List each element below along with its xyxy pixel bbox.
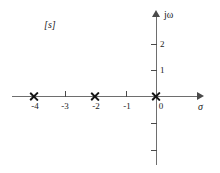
x-tick-label-minus-1: -1: [117, 101, 137, 112]
x-tick-label-minus-4: -4: [25, 101, 45, 112]
x-tick-minus-1: [126, 91, 127, 97]
real-axis-label: σ: [198, 101, 203, 112]
y-tick-1: [151, 70, 157, 71]
imaginary-axis-arrow-icon: [152, 10, 160, 17]
pole-marker-zero: [150, 90, 163, 103]
s-plane-label: [s]: [44, 19, 56, 30]
y-tick-label-2: 2: [160, 40, 165, 49]
y-tick-2: [151, 44, 157, 45]
x-tick-label-minus-3: -3: [55, 101, 75, 112]
y-tick-minus-1: [151, 123, 157, 124]
x-tick-minus-3: [65, 91, 66, 97]
x-tick-label-zero: 0: [151, 101, 171, 112]
real-axis-arrow-icon: [197, 92, 204, 100]
y-tick-minus-2: [151, 150, 157, 151]
x-tick-label-minus-2: -2: [86, 101, 106, 112]
y-tick-label-1: 1: [160, 66, 165, 75]
pole-marker-minus-4: [28, 90, 41, 103]
pole-marker-minus-2: [89, 90, 102, 103]
s-plane-pole-zero-plot: [s] jω σ -4 -3 -2 -1 0 2 1: [0, 0, 220, 173]
imaginary-axis-label: jω: [164, 9, 173, 20]
